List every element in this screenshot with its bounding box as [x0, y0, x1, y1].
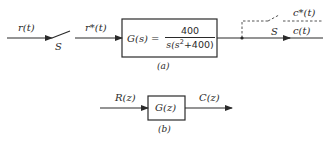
block-gs-lhs: G(s) =: [127, 34, 159, 44]
output-sampler-switch-icon: [268, 15, 279, 21]
sampler-switch-icon: [52, 31, 70, 38]
caption-a: (a): [157, 62, 169, 71]
caption-b: (b): [158, 125, 171, 134]
output-sampler-label: S: [271, 27, 278, 37]
den-post: +400): [184, 39, 214, 50]
sampled-signal-label: r*(t): [85, 23, 107, 33]
sampler-label: S: [55, 42, 62, 52]
output-signal-cz-label: C(z): [199, 93, 220, 103]
block-gz-label: G(z): [155, 103, 176, 113]
block-gs-fraction: 400 s(s2+400): [165, 26, 215, 49]
input-signal-label: r(t): [18, 23, 35, 33]
sampled-output-label: c*(t): [293, 8, 315, 18]
block-gs-denominator: s(s2+400): [165, 37, 215, 50]
block-gs-numerator: 400: [165, 26, 215, 37]
output-signal-label: c(t): [293, 26, 310, 36]
den-pre: s(s: [166, 39, 179, 50]
input-signal-rz-label: R(z): [115, 93, 136, 103]
dashed-output-tap: [242, 21, 268, 38]
